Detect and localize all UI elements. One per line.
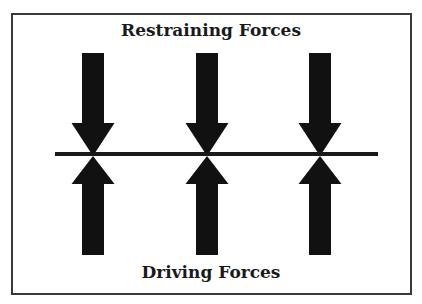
down-arrow-icon — [186, 53, 229, 156]
equilibrium-line — [55, 152, 378, 156]
driving-arrows — [72, 156, 342, 255]
up-arrow-icon — [72, 156, 115, 255]
force-field-diagram — [0, 0, 422, 304]
down-arrow-icon — [72, 53, 115, 156]
up-arrow-icon — [186, 156, 229, 255]
down-arrow-icon — [299, 53, 342, 156]
restraining-forces-label: Restraining Forces — [0, 20, 422, 40]
restraining-arrows — [72, 53, 342, 156]
up-arrow-icon — [299, 156, 342, 255]
driving-forces-label: Driving Forces — [0, 262, 422, 282]
